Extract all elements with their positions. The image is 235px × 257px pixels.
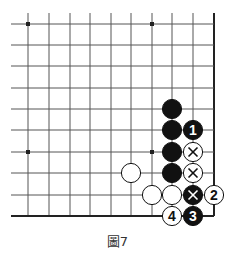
white-stone (162, 185, 181, 204)
black-stone: 1 (183, 120, 202, 139)
white-stone: 2 (204, 185, 223, 204)
black-stone (162, 142, 181, 161)
figure-caption: 圖7 (0, 231, 235, 250)
black-stone: 3 (183, 206, 202, 225)
black-stone (162, 120, 181, 139)
move-number: 3 (189, 208, 197, 224)
black-stone (183, 185, 202, 204)
white-stone (183, 163, 202, 182)
move-number: 2 (210, 187, 218, 203)
star-point (150, 22, 154, 26)
white-stone: 4 (162, 206, 181, 225)
white-stone (183, 142, 202, 161)
move-number: 1 (189, 122, 197, 138)
white-stone (142, 185, 161, 204)
star-point (26, 22, 30, 26)
board-grid (11, 13, 214, 216)
move-number: 4 (168, 208, 176, 224)
black-stone (162, 163, 181, 182)
star-point (26, 150, 30, 154)
black-stone (162, 99, 181, 118)
white-stone (121, 163, 140, 182)
star-point (150, 150, 154, 154)
go-board: 1243 (0, 0, 235, 230)
